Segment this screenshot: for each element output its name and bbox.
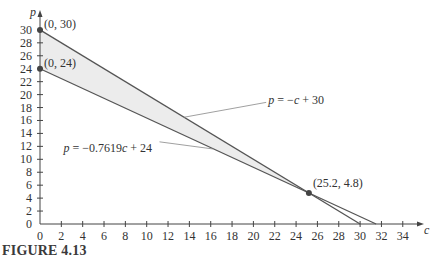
y-tick-label: 18 <box>20 101 32 115</box>
y-tick-label: 12 <box>20 139 32 153</box>
y-tick-label: 16 <box>20 113 32 127</box>
x-tick-label: 20 <box>247 229 259 240</box>
data-point <box>37 66 43 72</box>
y-tick-label: 20 <box>20 88 32 102</box>
x-tick-label: 22 <box>269 229 281 240</box>
x-tick-label: 30 <box>354 229 366 240</box>
chart: 0246810121416182022242628303234024681012… <box>0 0 444 240</box>
x-tick-label: 10 <box>141 229 153 240</box>
x-tick-label: 2 <box>58 229 64 240</box>
y-tick-label: 22 <box>20 75 32 89</box>
x-tick-label: 24 <box>290 229 302 240</box>
x-axis-label: c <box>424 223 430 237</box>
y-axis-arrow <box>38 10 43 17</box>
x-tick-label: 0 <box>37 229 43 240</box>
y-tick-label: 6 <box>26 178 32 192</box>
point-label: (25.2, 4.8) <box>313 176 363 190</box>
y-tick-label: 28 <box>20 36 32 50</box>
y-tick-label: 0 <box>26 217 32 231</box>
equation-label-1: p = −c + 30 <box>267 93 324 107</box>
data-point <box>306 190 312 196</box>
y-tick-label: 4 <box>26 191 32 205</box>
figure-caption: FIGURE 4.13 <box>2 243 87 259</box>
y-tick-label: 8 <box>26 165 32 179</box>
y-tick-label: 14 <box>20 126 32 140</box>
y-tick-label: 10 <box>20 152 32 166</box>
x-tick-label: 18 <box>226 229 238 240</box>
y-axis-label: p <box>29 5 36 19</box>
x-tick-label: 4 <box>80 229 86 240</box>
point-label: (0, 24) <box>44 56 76 70</box>
point-label: (0, 30) <box>44 17 76 31</box>
y-tick-label: 26 <box>20 49 32 63</box>
x-tick-label: 6 <box>101 229 107 240</box>
x-tick-label: 28 <box>333 229 345 240</box>
x-tick-label: 32 <box>375 229 387 240</box>
x-tick-label: 16 <box>205 229 217 240</box>
x-tick-label: 34 <box>397 229 409 240</box>
x-tick-label: 8 <box>122 229 128 240</box>
equation-label-2: p = −0.7619c + 24 <box>62 141 152 155</box>
data-point <box>37 27 43 33</box>
x-tick-label: 26 <box>311 229 323 240</box>
y-tick-label: 24 <box>20 62 32 76</box>
x-tick-label: 14 <box>183 229 195 240</box>
leader-line-1 <box>184 102 266 117</box>
x-axis-arrow <box>417 222 424 227</box>
x-tick-label: 12 <box>162 229 174 240</box>
y-tick-label: 30 <box>20 23 32 37</box>
y-tick-label: 2 <box>26 204 32 218</box>
